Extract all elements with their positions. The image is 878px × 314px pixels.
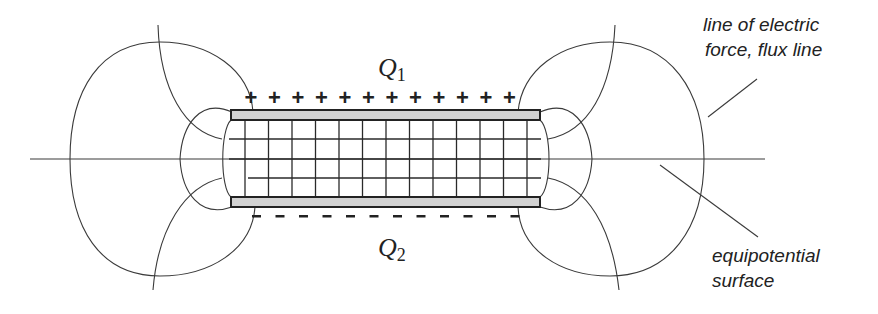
equipotential-label-2: surface — [712, 270, 774, 291]
equipotential-leader — [660, 165, 758, 237]
plus-sign: + — [433, 85, 446, 110]
minus-sign — [276, 215, 285, 218]
minus-sign — [299, 215, 308, 218]
plus-sign: + — [480, 85, 493, 110]
minus-sign — [511, 215, 520, 218]
plus-sign: + — [292, 85, 305, 110]
negative-charges — [252, 215, 520, 218]
plus-sign: + — [456, 85, 469, 110]
minus-sign — [370, 215, 379, 218]
minus-sign — [393, 215, 402, 218]
plus-sign: + — [409, 85, 422, 110]
minus-sign — [440, 215, 449, 218]
top-plate — [231, 110, 540, 120]
plus-sign: + — [339, 85, 352, 110]
flux-line-label-2: force, flux line — [705, 39, 822, 60]
bottom-plate — [231, 197, 540, 207]
minus-sign — [346, 215, 355, 218]
plus-sign: + — [245, 85, 258, 110]
equipotential-label-1: equipotential — [712, 245, 821, 266]
minus-sign — [323, 215, 332, 218]
q2-label: Q2 — [378, 233, 406, 265]
inner-flux-lines — [229, 120, 541, 197]
minus-sign — [252, 215, 261, 218]
capacitor-field-diagram: ++++++++++++ Q1 Q2 line of electric forc… — [0, 0, 878, 314]
plus-sign: + — [268, 85, 281, 110]
plus-sign: + — [386, 85, 399, 110]
plus-sign: + — [503, 85, 516, 110]
minus-sign — [464, 215, 473, 218]
minus-sign — [487, 215, 496, 218]
flux-line-label-1: line of electric — [703, 14, 820, 35]
plus-sign: + — [315, 85, 328, 110]
q1-label: Q1 — [378, 53, 406, 85]
flux-line-leader — [708, 79, 757, 117]
minus-sign — [417, 215, 426, 218]
positive-charges: ++++++++++++ — [245, 85, 516, 110]
plus-sign: + — [362, 85, 375, 110]
